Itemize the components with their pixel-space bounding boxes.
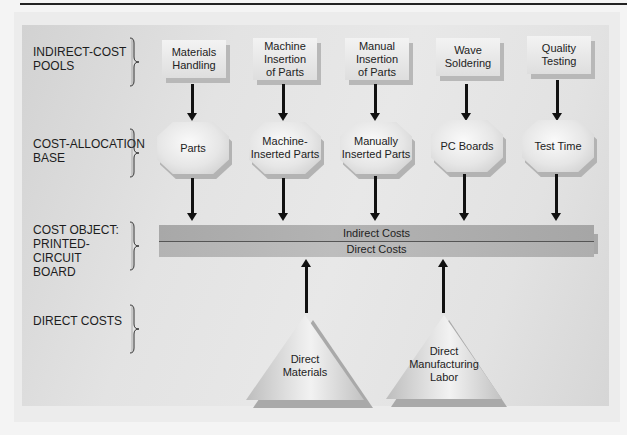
cone-line: Direct [384, 345, 504, 358]
arrow-down-icon [374, 84, 377, 115]
row-label-indirect-cost-pools: INDIRECT-COST POOLS [33, 45, 126, 73]
cost-pool-manual-insertion: ManualInsertionof Parts [345, 38, 409, 80]
allocation-base-test-time: Test Time [522, 120, 594, 172]
pool-line: Machine [264, 40, 306, 53]
pool-line: Insertion [264, 53, 306, 66]
direct-costs-bar: Direct Costs [159, 242, 594, 257]
cost-pool-quality-testing: QualityTesting [527, 36, 591, 74]
pool-line: Handling [172, 59, 217, 72]
indirect-costs-bar: Indirect Costs [159, 225, 594, 241]
cost-pool-machine-insertion: MachineInsertionof Parts [253, 38, 317, 80]
arrow-down-icon [556, 80, 559, 115]
base-line: Manually [342, 135, 410, 148]
cost-pool-materials-handling: MaterialsHandling [162, 40, 226, 78]
brace-icon [128, 304, 142, 354]
arrow-down-icon [282, 84, 285, 115]
pool-line: of Parts [356, 66, 398, 79]
label-line: CIRCUIT [33, 251, 119, 265]
base-line: Test Time [534, 140, 581, 153]
allocation-base-pc-boards: PC Boards [431, 120, 503, 172]
pool-line: Insertion [356, 53, 398, 66]
arrow-down-icon [465, 84, 468, 115]
cone-line: Manufacturing [384, 358, 504, 371]
label-line: INDIRECT-COST [33, 45, 126, 59]
arrow-down-icon [191, 178, 194, 215]
cone-line: Direct [243, 353, 367, 366]
brace-icon [128, 128, 142, 178]
cost-pool-wave-soldering: WaveSoldering [436, 38, 500, 76]
brace-icon [128, 37, 142, 87]
pool-line: Soldering [445, 57, 491, 70]
base-line: Parts [180, 142, 206, 155]
cone-label: Direct Materials [243, 353, 367, 379]
cone-line: Materials [243, 366, 367, 379]
label-line: DIRECT COSTS [33, 314, 122, 328]
pool-line: Materials [172, 46, 217, 59]
pool-line: Testing [542, 55, 577, 68]
pool-line: of Parts [264, 66, 306, 79]
base-line: Inserted Parts [251, 148, 319, 161]
arrow-up-icon [442, 265, 445, 313]
brace-icon [128, 221, 142, 271]
base-line: Inserted Parts [342, 148, 410, 161]
top-rule [20, 3, 627, 5]
cone-line: Labor [384, 371, 504, 384]
arrow-down-icon [374, 176, 377, 215]
pool-line: Wave [445, 44, 491, 57]
pool-line: Manual [356, 40, 398, 53]
arrow-up-icon [305, 265, 308, 313]
label-line: PRINTED- [33, 237, 119, 251]
label-line: BOARD [33, 265, 119, 279]
arrow-down-icon [191, 84, 194, 115]
allocation-base-machine-inserted-parts: Machine-Inserted Parts [249, 122, 321, 174]
base-line: Machine- [251, 135, 319, 148]
label-line: COST OBJECT: [33, 223, 119, 237]
direct-materials-cone: Direct Materials [246, 315, 370, 405]
row-label-direct-costs: DIRECT COSTS [33, 314, 122, 328]
pool-line: Quality [542, 42, 577, 55]
arrow-down-icon [555, 174, 558, 215]
allocation-base-manually-inserted-parts: ManuallyInserted Parts [340, 122, 412, 174]
cone-label: Direct Manufacturing Labor [384, 345, 504, 384]
row-label-cost-object: COST OBJECT: PRINTED- CIRCUIT BOARD [33, 223, 119, 279]
direct-manufacturing-labor-cone: Direct Manufacturing Labor [386, 315, 506, 405]
arrow-down-icon [282, 178, 285, 215]
base-line: PC Boards [440, 140, 493, 153]
label-line: POOLS [33, 59, 126, 73]
allocation-base-parts: Parts [157, 122, 229, 174]
arrow-down-icon [463, 174, 466, 215]
